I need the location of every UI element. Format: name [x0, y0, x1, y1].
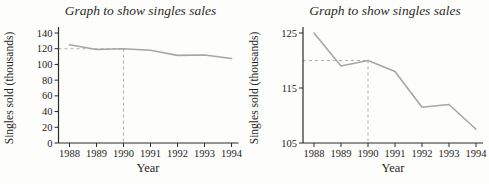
y-tick-label: 0: [47, 138, 52, 149]
x-tick-label: 1992: [167, 148, 188, 159]
x-tick-label: 1991: [385, 148, 406, 159]
chart-zoomed-scale: Graph to show singles sales Singles sold…: [245, 0, 489, 184]
y-tick-label: 100: [37, 59, 53, 70]
x-tick-label: 1993: [194, 148, 215, 159]
y-tick-label: 125: [281, 28, 297, 39]
y-tick-label: 60: [42, 90, 53, 101]
y-tick-label: 140: [37, 28, 53, 39]
singles-sales-line: [70, 45, 232, 59]
x-tick-label: 1994: [221, 148, 243, 159]
x-tick-label: 1988: [59, 148, 80, 159]
chart-full-scale: Graph to show singles sales Singles sold…: [0, 0, 245, 184]
x-tick-label: 1990: [358, 148, 379, 159]
x-axis-label: Year: [58, 161, 238, 176]
x-tick-label: 1988: [304, 148, 325, 159]
plot-area: 1051151251988198919901991199219931994: [245, 0, 489, 184]
y-tick-label: 20: [42, 122, 53, 133]
plot-area: 0204060801001201401988198919901991199219…: [0, 0, 245, 184]
x-tick-label: 1991: [140, 148, 161, 159]
x-tick-label: 1994: [466, 148, 488, 159]
x-tick-label: 1989: [331, 148, 352, 159]
y-tick-label: 115: [282, 83, 297, 94]
y-tick-label: 105: [281, 138, 297, 149]
x-tick-label: 1989: [86, 148, 107, 159]
x-axis-label: Year: [303, 161, 483, 176]
x-tick-label: 1990: [113, 148, 134, 159]
x-tick-label: 1993: [439, 148, 460, 159]
singles-sales-line: [314, 33, 476, 129]
y-tick-label: 40: [42, 106, 53, 117]
y-tick-label: 80: [42, 75, 53, 86]
dual-chart-figure: Graph to show singles sales Singles sold…: [0, 0, 489, 184]
x-tick-label: 1992: [412, 148, 433, 159]
y-tick-label: 120: [37, 43, 53, 54]
